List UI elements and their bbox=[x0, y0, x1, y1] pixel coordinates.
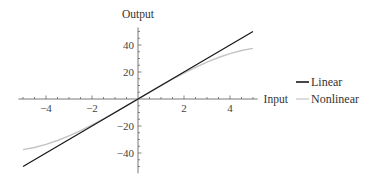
x-tick-label: −4 bbox=[40, 102, 52, 114]
legend: LinearNonlinear bbox=[296, 75, 359, 106]
legend-label-nonlinear: Nonlinear bbox=[311, 92, 359, 106]
line-chart: −4−224−40−202040OutputInput LinearNonlin… bbox=[0, 0, 375, 184]
x-tick-label: 4 bbox=[227, 102, 233, 114]
x-tick-label: −2 bbox=[86, 102, 98, 114]
x-tick-label: 2 bbox=[181, 102, 187, 114]
y-tick-label: −20 bbox=[117, 120, 135, 132]
x-axis-label: Input bbox=[264, 93, 289, 106]
y-axis-label: Output bbox=[122, 8, 155, 21]
y-tick-label: 20 bbox=[123, 66, 135, 78]
y-tick-label: 40 bbox=[123, 39, 135, 51]
legend-label-linear: Linear bbox=[311, 75, 342, 89]
y-tick-label: −40 bbox=[117, 147, 135, 159]
